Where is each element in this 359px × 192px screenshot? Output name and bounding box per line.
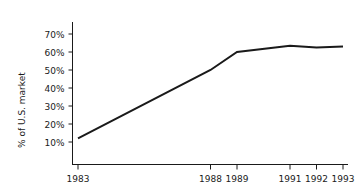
y-axis-title: % of U.S. market bbox=[17, 72, 27, 148]
y-tick-label: 10% bbox=[44, 138, 64, 148]
y-tick-label: 70% bbox=[44, 30, 64, 40]
x-tick-label: 1983 bbox=[67, 174, 90, 184]
y-tick-label: 20% bbox=[44, 120, 64, 130]
x-tick-label: 1989 bbox=[226, 174, 249, 184]
x-tick-label: 1988 bbox=[199, 174, 222, 184]
chart-canvas: 70%60%50%40%30%20%10% 198319881989199119… bbox=[0, 0, 359, 192]
y-tick-label: 60% bbox=[44, 48, 64, 58]
y-tick-label: 30% bbox=[44, 102, 64, 112]
line-chart: 70%60%50%40%30%20%10% 198319881989199119… bbox=[0, 0, 359, 192]
x-tick-label: 1991 bbox=[279, 174, 302, 184]
x-tick-label: 1993 bbox=[332, 174, 355, 184]
y-tick-label: 40% bbox=[44, 84, 64, 94]
y-tick-label: 50% bbox=[44, 66, 64, 76]
x-tick-label: 1992 bbox=[305, 174, 328, 184]
